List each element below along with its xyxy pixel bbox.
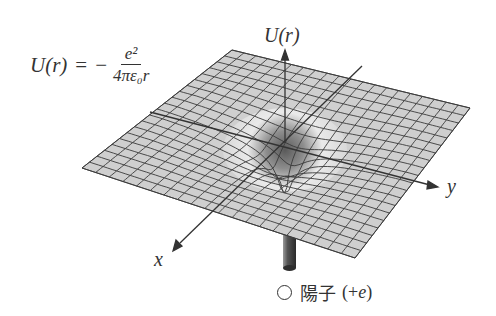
charge-symbol: e [358,282,366,302]
formula-lhs: U(r) [30,53,67,78]
coulomb-potential-diagram: U(r) = − e² 4πε₀r U(r) y x 陽子 (+e) [0,0,496,316]
formula-equals: = [75,53,87,78]
x-axis-label: x [154,248,163,271]
proton-charge: (+e) [342,282,372,303]
formula-numerator: e² [121,44,142,65]
u-axis-arrow-icon [282,50,289,60]
formula-fraction: e² 4πε₀r [111,44,151,87]
charge-open: (+ [342,282,358,302]
formula-denominator: 4πε₀r [111,65,151,87]
charge-close: ) [366,282,372,302]
proton-label: 陽子 (+e) [277,279,372,305]
y-axis-label: y [447,175,456,198]
formula-sign: − [95,53,107,78]
proton-text: 陽子 [300,279,336,305]
potential-formula: U(r) = − e² 4πε₀r [30,44,151,87]
circle-icon [277,285,292,300]
y-axis-arrow-icon [427,181,438,189]
u-axis-label: U(r) [264,24,300,47]
